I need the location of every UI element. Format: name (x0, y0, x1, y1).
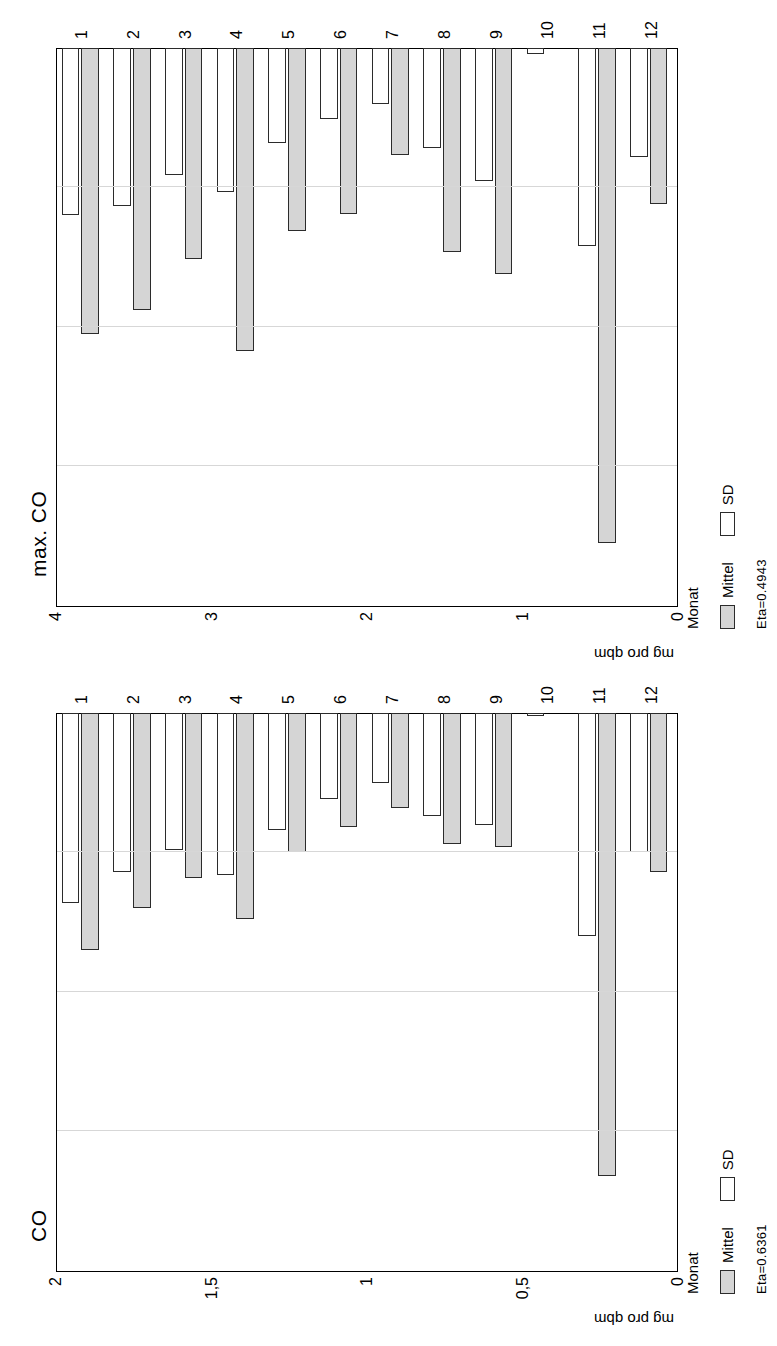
bar-sd[interactable] (527, 48, 545, 54)
bar-mittel[interactable] (185, 48, 203, 259)
page-root: { "chart_data": [ { "type": "bar", "titl… (0, 0, 777, 1346)
bar-mittel[interactable] (185, 713, 203, 878)
bar-mittel[interactable] (598, 48, 616, 543)
category-label: 4 (211, 18, 263, 48)
y-tick-labels-co: 00,511,52 (56, 1272, 678, 1306)
value-tick-label: 0,5 (514, 1277, 532, 1299)
value-tick-label: 1,5 (203, 1277, 221, 1299)
bar-group (470, 48, 522, 606)
bar-mittel[interactable] (391, 48, 409, 155)
gridline (57, 326, 677, 327)
bar-mittel[interactable] (443, 48, 461, 252)
value-tick-label: 1 (358, 1277, 376, 1286)
bar-mittel[interactable] (598, 713, 616, 1176)
bar-sd[interactable] (527, 713, 545, 716)
bar-mittel[interactable] (340, 48, 358, 214)
y-axis-label-max-co: mg pro qbm (56, 641, 678, 663)
value-tick-label: 3 (203, 612, 221, 621)
bar-group (264, 713, 316, 1271)
category-label: 12 (626, 18, 678, 48)
bar-mittel[interactable] (236, 48, 254, 351)
panel-title-co: CO (24, 683, 54, 1242)
bar-group (574, 48, 626, 606)
bar-sd[interactable] (268, 713, 286, 830)
gridline (57, 1131, 677, 1132)
category-label: 7 (367, 18, 419, 48)
bar-mittel[interactable] (495, 48, 513, 274)
category-label: 3 (160, 18, 212, 48)
bar-mittel[interactable] (650, 48, 668, 204)
bar-sd[interactable] (372, 713, 390, 783)
bar-mittel[interactable] (133, 48, 151, 310)
plot-wrap-max-co: mg pro qbm 01234 123456789101112 (56, 18, 678, 663)
bar-sd[interactable] (165, 48, 183, 175)
bar-mittel[interactable] (236, 713, 254, 919)
bar-mittel[interactable] (443, 713, 461, 844)
panel-co: CO mg pro qbm 00,511,52 123456789101112 … (18, 673, 769, 1338)
bar-mittel[interactable] (81, 713, 99, 950)
gridline (57, 466, 677, 467)
bar-sd[interactable] (320, 713, 338, 799)
legend-max-co: Mittel SD (714, 18, 740, 629)
figure: CO mg pro qbm 00,511,52 123456789101112 … (0, 0, 777, 1346)
bar-group (160, 48, 212, 606)
bar-sd[interactable] (320, 48, 338, 119)
plot-area-max-co (56, 48, 678, 607)
bar-mittel[interactable] (133, 713, 151, 908)
bar-sd[interactable] (578, 713, 596, 936)
bar-mittel[interactable] (288, 48, 306, 231)
bar-group (315, 713, 367, 1271)
legend-label-mittel: Mittel (719, 1227, 736, 1263)
eta-annotation-co: Eta=0.6361 (754, 683, 769, 1294)
bar-mittel[interactable] (495, 713, 513, 847)
category-label: 10 (522, 18, 574, 48)
legend-swatch-sd-icon (720, 1177, 735, 1201)
bar-mittel[interactable] (650, 713, 668, 872)
bar-group (212, 48, 264, 606)
bar-sd[interactable] (423, 713, 441, 816)
category-label: 7 (367, 683, 419, 713)
legend-swatch-sd-icon (720, 512, 735, 536)
bar-group (315, 48, 367, 606)
bar-sd[interactable] (165, 713, 183, 850)
plot-area-co (56, 713, 678, 1272)
bar-sd[interactable] (113, 713, 131, 872)
bar-sd[interactable] (475, 713, 493, 825)
value-tick-label: 2 (358, 612, 376, 621)
category-label: 8 (419, 683, 471, 713)
bar-group (160, 713, 212, 1271)
bar-sd[interactable] (62, 713, 80, 903)
bar-sd[interactable] (578, 48, 596, 246)
bar-mittel[interactable] (288, 713, 306, 853)
value-tick-label: 4 (47, 612, 65, 621)
bar-mittel[interactable] (391, 713, 409, 808)
legend-item-sd-co: SD (719, 1149, 736, 1201)
bar-sd[interactable] (630, 48, 648, 157)
bar-mittel[interactable] (81, 48, 99, 334)
y-axis-label-co: mg pro qbm (56, 1306, 678, 1328)
category-ticks-max-co: 123456789101112 (56, 18, 678, 48)
bar-group (625, 713, 677, 1271)
bar-sd[interactable] (113, 48, 131, 206)
value-tick-label: 0 (669, 1277, 687, 1286)
bar-groups-max-co (57, 48, 677, 606)
category-label: 4 (211, 683, 263, 713)
category-label: 2 (108, 18, 160, 48)
bar-group (57, 48, 109, 606)
category-label: 2 (108, 683, 160, 713)
bar-group (574, 713, 626, 1271)
bar-mittel[interactable] (340, 713, 358, 827)
bar-sd[interactable] (475, 48, 493, 181)
bar-sd[interactable] (62, 48, 80, 215)
bar-sd[interactable] (217, 48, 235, 192)
bar-sd[interactable] (268, 48, 286, 143)
category-label: 3 (160, 683, 212, 713)
bar-group (625, 48, 677, 606)
legend-label-mittel: Mittel (719, 562, 736, 598)
bar-sd[interactable] (423, 48, 441, 148)
panel-max-co: max. CO mg pro qbm 01234 123456789101112… (18, 8, 769, 673)
bar-group (367, 713, 419, 1271)
value-tick-label: 2 (47, 1277, 65, 1286)
bar-sd[interactable] (630, 713, 648, 853)
bar-sd[interactable] (372, 48, 390, 104)
